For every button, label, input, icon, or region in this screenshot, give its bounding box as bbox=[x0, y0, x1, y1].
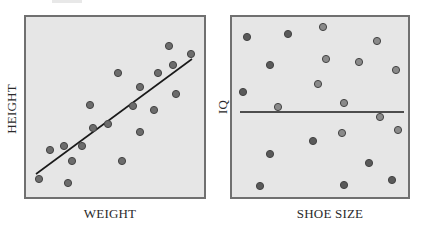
data-point bbox=[89, 124, 96, 131]
data-point bbox=[373, 37, 380, 44]
data-point bbox=[169, 61, 176, 68]
data-point bbox=[284, 30, 291, 37]
data-point bbox=[340, 99, 347, 106]
data-point bbox=[64, 179, 71, 186]
data-point bbox=[322, 55, 329, 62]
data-point bbox=[376, 113, 383, 120]
data-point bbox=[118, 157, 125, 164]
data-point bbox=[68, 157, 75, 164]
data-point bbox=[136, 83, 143, 90]
x-axis-label-weight: WEIGHT bbox=[84, 206, 136, 222]
data-point bbox=[46, 146, 53, 153]
data-point bbox=[150, 106, 157, 113]
data-point bbox=[355, 58, 362, 65]
data-point bbox=[314, 80, 321, 87]
data-point bbox=[172, 90, 179, 97]
data-point bbox=[392, 66, 399, 73]
data-point bbox=[104, 120, 111, 127]
data-point bbox=[243, 33, 250, 40]
data-point bbox=[319, 23, 326, 30]
data-point bbox=[165, 42, 172, 49]
data-point bbox=[78, 142, 85, 149]
data-point bbox=[187, 50, 194, 57]
data-point bbox=[114, 69, 121, 76]
data-point bbox=[309, 137, 316, 144]
data-point bbox=[129, 102, 136, 109]
data-point bbox=[340, 181, 347, 188]
data-point bbox=[365, 159, 372, 166]
scatter-plots bbox=[0, 0, 422, 236]
data-point bbox=[338, 129, 345, 136]
y-axis-label-height: HEIGHT bbox=[4, 84, 20, 134]
data-point bbox=[266, 61, 273, 68]
data-point bbox=[239, 88, 246, 95]
data-point bbox=[35, 175, 42, 182]
data-point bbox=[60, 142, 67, 149]
x-axis-label-shoe-size: SHOE SIZE bbox=[297, 206, 363, 222]
data-point bbox=[394, 126, 401, 133]
weight-height-scatter-plot bbox=[25, 16, 205, 198]
data-point bbox=[256, 182, 263, 189]
shoesize-iq-scatter-plot bbox=[231, 16, 409, 198]
data-point bbox=[274, 103, 281, 110]
data-point bbox=[388, 176, 395, 183]
data-point bbox=[154, 69, 161, 76]
plot-frame bbox=[25, 16, 205, 198]
plot-frame bbox=[231, 16, 409, 198]
data-point bbox=[86, 101, 93, 108]
data-point bbox=[136, 128, 143, 135]
y-axis-label-iq: IQ bbox=[215, 100, 231, 114]
data-point bbox=[266, 150, 273, 157]
